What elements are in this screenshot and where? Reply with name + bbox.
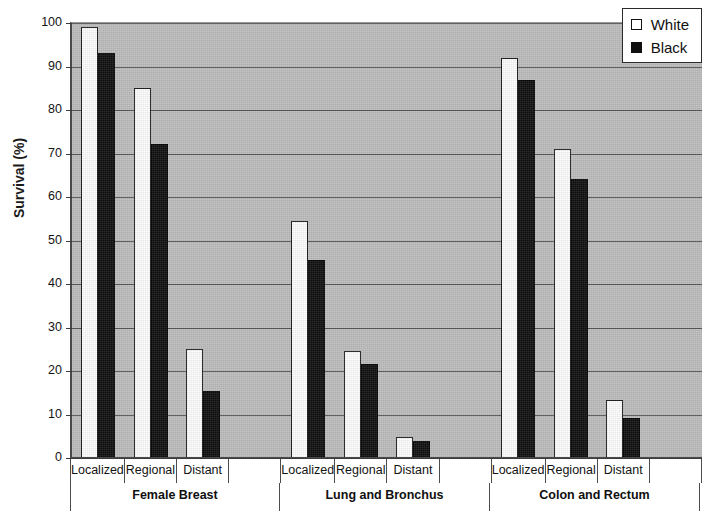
legend-label: Black: [651, 39, 688, 56]
legend-label: White: [651, 16, 689, 33]
y-axis-tick-label: 50: [18, 234, 62, 246]
bar-black-colon-and-rectum-regional: [571, 179, 588, 458]
x-axis-group-row: Female BreastLung and BronchusColon and …: [70, 483, 702, 511]
bar-white-female-breast-regional: [134, 88, 151, 458]
bar-black-colon-and-rectum-localized: [518, 80, 535, 458]
x-axis-label-localized: Localized: [281, 457, 335, 483]
bar-white-lung-and-bronchus-regional: [344, 351, 361, 458]
bar-chart: Survival (%) 0102030405060708090100 Whit…: [0, 0, 709, 518]
y-axis-tick-label: 20: [18, 364, 62, 376]
legend-swatch-open-square-icon: [631, 19, 642, 30]
y-axis-tick: [66, 197, 72, 198]
chart-legend: White Black: [622, 8, 702, 63]
y-axis-tick-label: 80: [18, 103, 62, 115]
x-axis-label-distant: Distant: [598, 457, 650, 483]
y-axis-tick: [66, 23, 72, 24]
y-axis-tick: [66, 67, 72, 68]
y-axis-tick-label: 0: [18, 451, 62, 463]
bar-white-lung-and-bronchus-distant: [396, 437, 413, 458]
y-axis-tick-label: 70: [18, 147, 62, 159]
plot-area: 0102030405060708090100: [70, 22, 702, 458]
legend-swatch-filled-square-icon: [631, 42, 642, 53]
y-axis-tick-label: 100: [18, 16, 62, 28]
x-axis-label-regional: Regional: [546, 457, 598, 483]
y-axis-tick: [66, 110, 72, 111]
x-axis-label-localized: Localized: [70, 457, 125, 483]
y-axis-tick-label: 90: [18, 60, 62, 72]
x-axis-label-localized: Localized: [492, 457, 546, 483]
bar-white-female-breast-distant: [186, 349, 203, 458]
y-axis-tick-label: 10: [18, 408, 62, 420]
x-axis-group-label-lung-and-bronchus: Lung and Bronchus: [280, 483, 490, 511]
bar-black-lung-and-bronchus-localized: [308, 260, 325, 458]
y-axis-tick: [66, 154, 72, 155]
bar-white-colon-and-rectum-regional: [554, 149, 571, 458]
y-axis-title: Survival (%): [11, 103, 27, 253]
bar-white-lung-and-bronchus-localized: [291, 221, 308, 458]
gridline: [72, 110, 702, 111]
gridline: [72, 67, 702, 68]
x-axis-label-spacer: [650, 457, 702, 483]
y-axis-tick: [66, 241, 72, 242]
legend-item-white: White: [631, 14, 689, 34]
x-axis-baseline: [72, 457, 702, 459]
x-axis-label-distant: Distant: [177, 457, 229, 483]
y-axis-tick-label: 40: [18, 277, 62, 289]
x-axis-label-regional: Regional: [125, 457, 177, 483]
x-axis-label-distant: Distant: [387, 457, 439, 483]
y-axis-tick: [66, 415, 72, 416]
x-axis-group-label-female-breast: Female Breast: [70, 483, 280, 511]
x-axis-label-regional: Regional: [335, 457, 387, 483]
y-axis-tick-label: 30: [18, 321, 62, 333]
bar-black-lung-and-bronchus-regional: [361, 364, 378, 458]
bar-white-colon-and-rectum-localized: [501, 58, 518, 458]
bar-white-female-breast-localized: [81, 27, 98, 458]
bar-black-female-breast-regional: [151, 144, 168, 459]
y-axis-tick: [66, 328, 72, 329]
gridline: [72, 23, 702, 24]
legend-item-black: Black: [631, 37, 689, 57]
bar-black-colon-and-rectum-distant: [623, 418, 640, 458]
x-axis-group-label-colon-and-rectum: Colon and Rectum: [490, 483, 700, 511]
x-axis-label-spacer: [229, 457, 281, 483]
bar-black-female-breast-localized: [98, 53, 115, 458]
y-axis-tick: [66, 371, 72, 372]
x-axis-category-row: LocalizedRegionalDistantLocalizedRegiona…: [70, 457, 702, 483]
bar-black-female-breast-distant: [203, 391, 220, 458]
y-axis-tick-label: 60: [18, 190, 62, 202]
y-axis-tick: [66, 284, 72, 285]
x-axis-label-spacer: [440, 457, 492, 483]
bar-white-colon-and-rectum-distant: [606, 400, 623, 458]
bar-black-lung-and-bronchus-distant: [413, 441, 430, 458]
